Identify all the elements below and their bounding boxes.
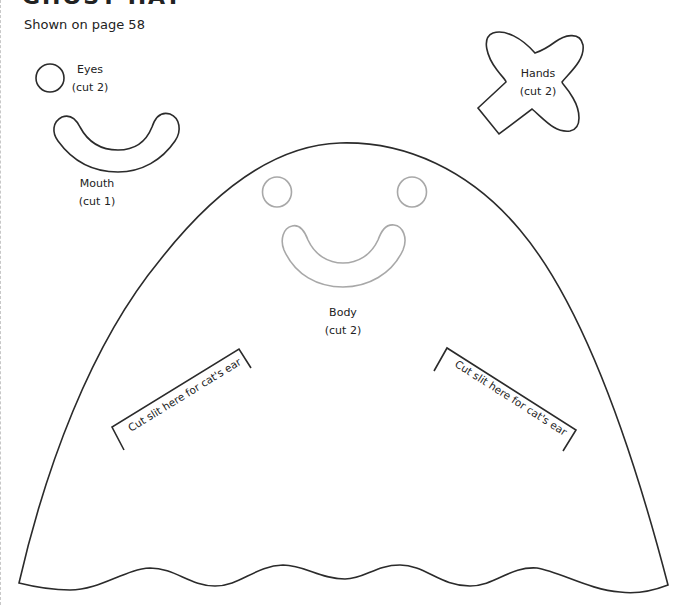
right-slit-label: Cut slit here for cat's ear — [453, 358, 570, 438]
right-ear-slit: Cut slit here for cat's ear — [434, 348, 576, 451]
left-eye-guide — [263, 177, 292, 207]
body-name: Body — [320, 304, 366, 322]
eyes-cut-count: (cut 2) — [70, 79, 110, 97]
mouth-piece — [54, 113, 179, 172]
body-cut-count: (cut 2) — [320, 322, 366, 340]
left-ear-slit: Cut slit here for cat's ear — [112, 349, 251, 450]
right-eye-guide — [398, 177, 427, 207]
mouth-label: Mouth (cut 1) — [74, 175, 120, 211]
face-guide — [263, 177, 427, 287]
hands-label: Hands (cut 2) — [515, 65, 561, 101]
hands-name: Hands — [515, 65, 561, 83]
body-label: Body (cut 2) — [320, 304, 366, 340]
eye-piece — [36, 64, 64, 92]
eyes-label: Eyes (cut 2) — [70, 61, 110, 97]
mouth-name: Mouth — [74, 175, 120, 193]
left-slit-label: Cut slit here for cat's ear — [126, 355, 244, 434]
mouth-guide — [282, 225, 405, 287]
hands-cut-count: (cut 2) — [515, 83, 561, 101]
eyes-name: Eyes — [70, 61, 110, 79]
mouth-cut-count: (cut 1) — [74, 193, 120, 211]
